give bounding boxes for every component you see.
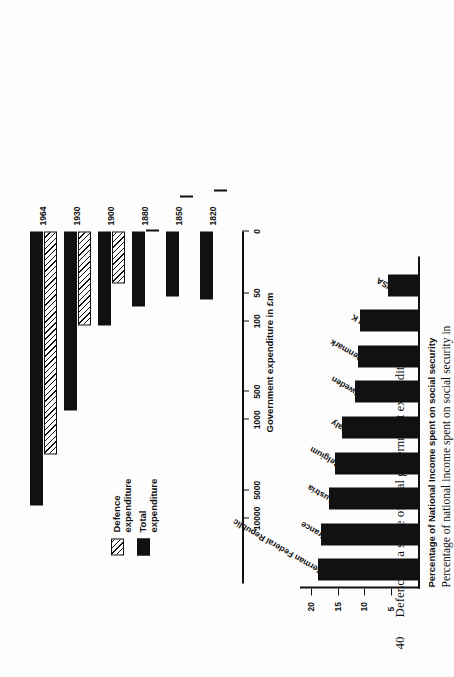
chart2-bar	[358, 345, 418, 367]
chart1-year-label: 1900	[106, 206, 116, 225]
chart1-tick-label: 5000	[252, 480, 262, 499]
chart1-bar-defence	[44, 231, 57, 454]
chart1-tick-label: 1000	[252, 410, 262, 429]
chart2-tick	[391, 588, 392, 595]
chart2-bar	[318, 558, 418, 580]
chart2-tick	[338, 588, 339, 595]
legend-swatch-hatched-icon	[111, 538, 124, 555]
chart1-tick	[242, 320, 249, 321]
legend-label-total: Total expenditure	[137, 478, 159, 532]
social-security-chart: 5101520 German Federal RepublicFranceAus…	[300, 227, 450, 647]
chart2-tick-label: 10	[359, 602, 369, 611]
legend-label-defence: Defence expenditure	[111, 478, 133, 532]
chart1-tick	[242, 390, 249, 391]
chart2-tick-label: 20	[306, 602, 316, 611]
chart2-bar	[329, 487, 418, 509]
chart1-bar-total	[64, 231, 77, 410]
chart1-tick	[242, 517, 249, 518]
chart1-year-label: 1930	[72, 206, 82, 225]
chart1-tick-label: 500	[252, 384, 262, 398]
chart2-bar	[335, 452, 418, 474]
chart1-tick-label: 100	[252, 314, 262, 328]
chart1-tick	[242, 418, 249, 419]
chart1-year-label: 1964	[38, 206, 48, 225]
chart2-axis-title: Percentage of National Income spent on s…	[426, 337, 437, 587]
chart2-bar	[360, 309, 418, 331]
chart2-tick-label: 15	[333, 602, 343, 611]
chart1-tick	[242, 230, 249, 231]
chart1-bar-total	[132, 231, 145, 306]
chart1-bar-pair	[166, 231, 196, 583]
chart1-year-label: 1820	[208, 206, 218, 225]
chart1-bar-total	[98, 231, 111, 325]
chart1-bar-pair	[64, 231, 94, 583]
chart1-bar-pair	[200, 231, 230, 583]
chart1-bar-defence	[146, 229, 159, 231]
chart2-bar	[342, 416, 418, 438]
chart1-bar-total	[200, 231, 213, 299]
chart1-bar-defence	[214, 189, 227, 191]
chart1-bar-defence	[78, 231, 91, 325]
chart1-axis-label: Government expenditure in £m	[264, 292, 275, 432]
chart2-bar	[321, 523, 418, 545]
chart1-tick-label: 50	[252, 288, 262, 297]
scanned-page: 40 Defence as a share of total governmen…	[0, 0, 454, 677]
chart2-caption-line1: Percentage of national income spent on s…	[440, 325, 452, 587]
chart1-bar-defence	[112, 231, 125, 283]
chart1-bar-pair	[30, 231, 60, 583]
legend-swatch-solid-icon	[137, 538, 150, 555]
chart2-tick	[311, 588, 312, 595]
chart2-baseline	[418, 256, 420, 588]
chart1-year-label: 1850	[174, 206, 184, 225]
chart1-year-label: 1880	[140, 206, 150, 225]
chart1-bar-total	[166, 231, 179, 296]
chart1-bar-defence	[180, 195, 193, 197]
chart2-bar	[355, 380, 418, 402]
government-expenditure-chart: 0501005001000500010000 18201850188019001…	[24, 227, 274, 647]
chart1-tick	[242, 489, 249, 490]
chart1-tick-label: 10000	[252, 506, 262, 530]
chart1-tick-label: 0	[252, 229, 262, 234]
chart1-tick	[242, 292, 249, 293]
chart2-tick	[364, 588, 365, 595]
chart2-tick-label: 5	[386, 606, 396, 611]
chart1-bar-total	[30, 231, 43, 505]
